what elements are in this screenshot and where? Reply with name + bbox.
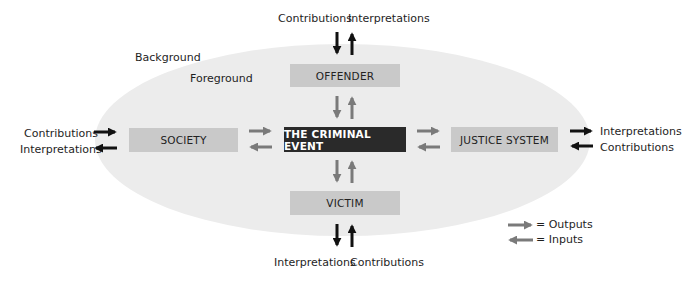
victim-outer-arrows (337, 224, 352, 247)
offender-inner-arrows (337, 96, 352, 119)
legend-arrows (508, 225, 533, 240)
offender-outer-arrows (337, 32, 352, 55)
victim-inner-arrows (337, 160, 352, 183)
justice-inner-arrows (417, 131, 440, 147)
justice-outer-arrows (570, 131, 593, 146)
society-inner-arrows (249, 131, 272, 147)
society-outer-arrows (94, 132, 117, 148)
legend-outputs: = Outputs (536, 218, 593, 231)
legend-inputs: = Inputs (536, 233, 583, 246)
